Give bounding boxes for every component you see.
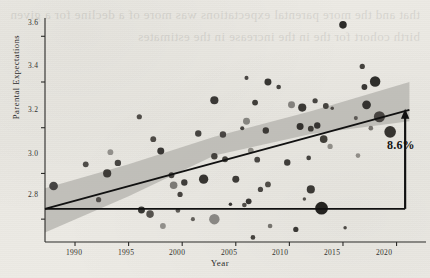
- data-point: [297, 123, 304, 130]
- data-point: [306, 156, 311, 161]
- data-point: [284, 159, 290, 165]
- data-point: [115, 160, 121, 166]
- data-point: [331, 107, 334, 110]
- data-point: [308, 126, 314, 132]
- data-point: [323, 103, 329, 109]
- data-point: [211, 153, 217, 159]
- data-point: [191, 217, 195, 221]
- data-point: [356, 153, 361, 158]
- data-point: [314, 122, 320, 128]
- data-point: [320, 135, 328, 143]
- data-point: [254, 157, 260, 163]
- data-point: [362, 84, 368, 90]
- data-point: [195, 130, 201, 136]
- data-point: [244, 76, 248, 80]
- data-point: [220, 131, 226, 137]
- data-point: [137, 114, 142, 119]
- data-point: [251, 235, 256, 240]
- data-point: [243, 118, 250, 125]
- data-point: [160, 223, 166, 229]
- growth-arrow: [401, 109, 409, 209]
- chart-canvas: [0, 0, 430, 278]
- data-point: [107, 149, 113, 155]
- data-point: [369, 126, 374, 131]
- data-point: [229, 203, 232, 206]
- data-point: [96, 197, 101, 202]
- data-point: [303, 197, 306, 200]
- data-point: [177, 192, 182, 197]
- data-point: [276, 85, 281, 90]
- data-point: [288, 101, 295, 108]
- data-point: [265, 181, 271, 187]
- regression-line: [45, 110, 409, 209]
- data-point: [339, 21, 347, 29]
- scatter-chart: Parental Expectations Year 3.6 3.4 3.2 3…: [0, 0, 430, 278]
- data-point: [268, 224, 273, 229]
- data-point: [242, 203, 247, 208]
- data-point: [384, 126, 396, 138]
- data-point: [354, 116, 358, 120]
- data-point: [263, 127, 269, 133]
- data-point: [146, 210, 154, 218]
- data-point: [232, 176, 239, 183]
- data-point: [103, 169, 111, 177]
- data-point: [298, 104, 306, 112]
- data-point: [83, 161, 89, 167]
- data-point: [157, 148, 164, 155]
- data-point: [362, 100, 371, 109]
- data-point: [258, 187, 263, 192]
- data-point: [199, 174, 208, 183]
- data-point: [327, 144, 332, 149]
- data-point: [343, 226, 346, 229]
- data-point: [293, 227, 298, 232]
- data-point: [307, 185, 315, 193]
- data-point: [246, 198, 252, 204]
- data-point: [181, 179, 187, 185]
- data-point: [264, 79, 271, 86]
- data-point: [210, 96, 218, 104]
- data-point: [209, 214, 219, 224]
- data-point: [170, 182, 178, 190]
- data-point: [312, 98, 317, 103]
- data-point: [240, 126, 244, 130]
- data-point: [49, 182, 58, 191]
- data-point: [360, 64, 365, 69]
- data-point: [370, 76, 380, 86]
- confidence-band: [45, 82, 409, 232]
- data-point: [150, 136, 156, 142]
- data-point: [252, 100, 258, 106]
- data-point: [138, 207, 145, 214]
